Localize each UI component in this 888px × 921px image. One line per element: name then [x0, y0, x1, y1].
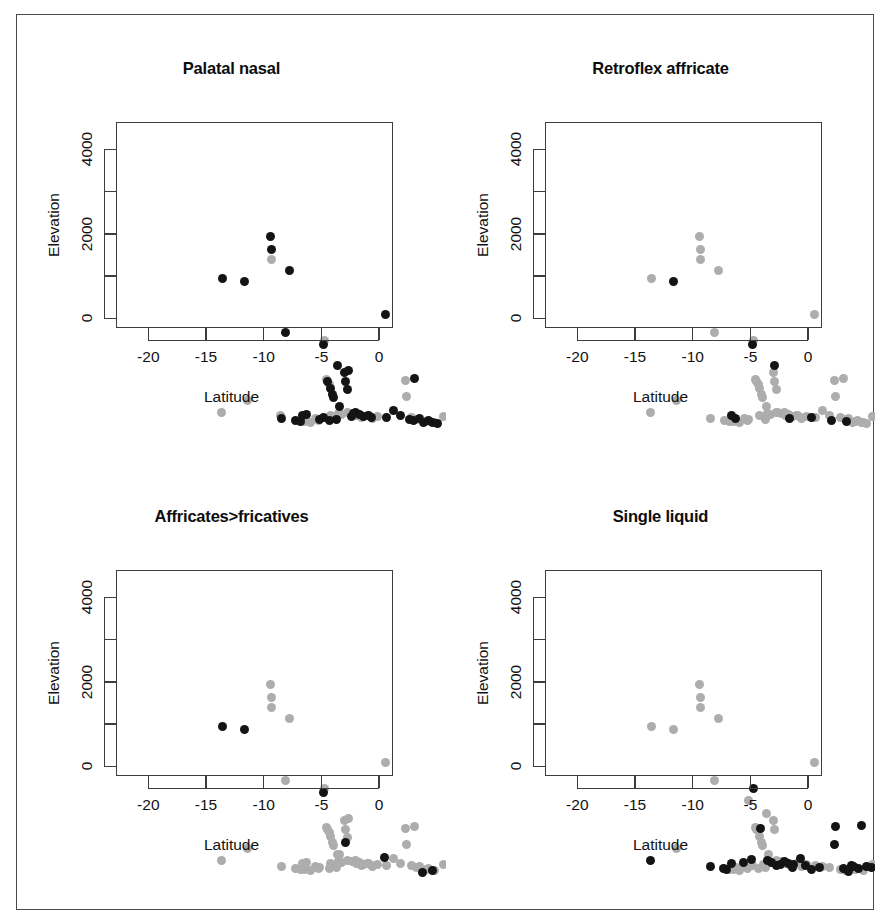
- x-axis-label: Latitude: [17, 388, 446, 406]
- x-tick: [692, 328, 693, 340]
- panel-affricates-fricatives: Affricates>fricatives020004000-20-15-10-…: [17, 463, 446, 911]
- data-point-present: [266, 232, 275, 241]
- data-point-present: [433, 419, 442, 428]
- x-tick: [321, 328, 322, 340]
- x-tick: [807, 328, 808, 340]
- data-point-absent: [695, 232, 704, 241]
- data-point-present: [277, 414, 286, 423]
- data-point-present: [706, 862, 715, 871]
- data-point-absent: [810, 310, 819, 319]
- data-point-absent: [706, 414, 715, 423]
- y-tick: [533, 597, 545, 598]
- data-point-absent: [401, 824, 410, 833]
- data-point-absent: [396, 859, 405, 868]
- data-point-present: [815, 863, 824, 872]
- x-axis-label: Latitude: [17, 836, 446, 854]
- data-point-present: [218, 274, 227, 283]
- y-tick-label: 0: [507, 314, 525, 323]
- y-tick-label: 4000: [507, 580, 525, 614]
- x-tick-label: 0: [768, 796, 848, 814]
- y-tick: [533, 681, 545, 682]
- data-point-absent: [744, 415, 753, 424]
- y-tick: [533, 639, 545, 640]
- y-tick: [104, 318, 116, 319]
- y-tick-label: 2000: [78, 665, 96, 699]
- x-tick-label: 0: [339, 796, 419, 814]
- data-point-present: [410, 374, 419, 383]
- y-tick: [533, 191, 545, 192]
- x-tick: [577, 776, 578, 788]
- x-tick: [148, 776, 149, 788]
- x-axis-label: Latitude: [446, 836, 875, 854]
- data-point-absent: [647, 722, 656, 731]
- panel-title: Affricates>fricatives: [17, 507, 446, 526]
- data-point-present: [646, 856, 655, 865]
- data-point-present: [332, 415, 341, 424]
- plot-area: [116, 122, 393, 328]
- x-tick: [148, 328, 149, 340]
- x-tick: [378, 776, 379, 788]
- plot-area: [116, 570, 393, 776]
- data-point-absent: [646, 408, 655, 417]
- data-point-present: [788, 863, 797, 872]
- x-tick: [321, 776, 322, 788]
- data-point-absent: [696, 245, 705, 254]
- plot-area: [545, 122, 822, 328]
- y-tick-label: 4000: [78, 580, 96, 614]
- plot-area: [545, 570, 822, 776]
- x-tick: [750, 776, 751, 788]
- data-point-absent: [714, 714, 723, 723]
- data-point-present: [756, 824, 765, 833]
- y-tick-label: 4000: [78, 132, 96, 166]
- data-point-absent: [382, 861, 391, 870]
- data-point-present: [240, 277, 249, 286]
- data-point-absent: [439, 860, 446, 869]
- y-tick-label: 2000: [507, 217, 525, 251]
- data-point-absent: [696, 255, 705, 264]
- x-tick: [807, 776, 808, 788]
- y-tick-label: 2000: [78, 217, 96, 251]
- panel-single-liquid: Single liquid020004000-20-15-10-50Latitu…: [446, 463, 875, 911]
- y-tick: [104, 233, 116, 234]
- data-point-absent: [647, 274, 656, 283]
- y-tick: [533, 233, 545, 234]
- y-tick: [533, 723, 545, 724]
- data-point-absent: [267, 255, 276, 264]
- data-point-absent: [315, 863, 324, 872]
- data-point-absent: [267, 703, 276, 712]
- y-axis-label: Elevation: [474, 193, 492, 257]
- data-point-absent: [669, 725, 678, 734]
- y-axis-label: Elevation: [45, 193, 63, 257]
- data-point-absent: [696, 703, 705, 712]
- data-point-present: [669, 277, 678, 286]
- figure-border: Palatal nasal020004000-20-15-10-50Latitu…: [16, 14, 874, 910]
- data-point-present: [218, 722, 227, 731]
- y-tick-label: 4000: [507, 132, 525, 166]
- data-point-present: [831, 822, 840, 831]
- y-axis-label: Elevation: [474, 641, 492, 705]
- x-tick-label: 0: [768, 348, 848, 366]
- y-tick: [104, 681, 116, 682]
- x-tick: [263, 776, 264, 788]
- data-point-present: [281, 328, 290, 337]
- data-point-present: [381, 310, 390, 319]
- x-axis-line: [577, 340, 808, 341]
- panel-palatal-nasal: Palatal nasal020004000-20-15-10-50Latitu…: [17, 15, 446, 463]
- data-point-present: [772, 861, 781, 870]
- data-point-absent: [810, 758, 819, 767]
- data-point-absent: [770, 825, 779, 834]
- x-axis-line: [577, 788, 808, 789]
- data-point-absent: [710, 776, 719, 785]
- y-tick: [104, 639, 116, 640]
- y-tick-label: 0: [78, 762, 96, 771]
- x-axis-line: [148, 788, 379, 789]
- y-tick: [104, 149, 116, 150]
- data-point-absent: [381, 758, 390, 767]
- y-tick: [104, 191, 116, 192]
- data-point-absent: [217, 408, 226, 417]
- data-point-absent: [825, 863, 834, 872]
- data-point-absent: [410, 822, 419, 831]
- y-tick-label: 0: [78, 314, 96, 323]
- data-point-present: [827, 416, 836, 425]
- x-tick: [205, 328, 206, 340]
